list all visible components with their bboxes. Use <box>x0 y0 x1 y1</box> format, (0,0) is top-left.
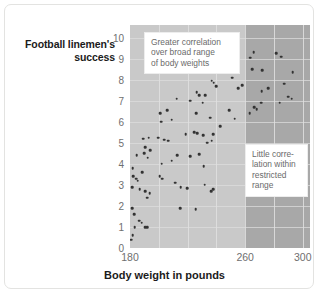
data-point <box>275 52 278 55</box>
y-tick-label-7: 7 <box>108 95 124 106</box>
data-point <box>141 171 144 174</box>
x-axis-title: Body weight in pounds <box>5 269 319 281</box>
data-point <box>209 116 212 119</box>
data-point <box>283 83 286 86</box>
data-point <box>291 71 294 74</box>
annotation-line: restricted <box>252 170 302 180</box>
y-tick-label-2: 2 <box>108 200 124 211</box>
data-point <box>248 112 251 115</box>
data-point <box>184 133 187 136</box>
data-point <box>194 208 197 211</box>
annotation-line: Little corre- <box>252 149 302 159</box>
gridline-h-2 <box>130 206 310 207</box>
data-point <box>163 138 166 141</box>
annotation-restricted-range: Little corre-lation withinrestrictedrang… <box>245 144 308 197</box>
data-point <box>133 213 136 216</box>
data-point <box>195 91 198 94</box>
annotation-line: range <box>252 180 302 190</box>
gridline-v-260 <box>245 25 246 248</box>
data-point <box>215 85 218 88</box>
y-axis-title: Football linemen's success <box>11 38 115 64</box>
data-point <box>253 51 256 54</box>
annotation-line: Greater correlation <box>151 37 234 47</box>
data-point <box>157 136 160 139</box>
data-point <box>144 190 147 193</box>
data-point <box>167 139 170 142</box>
data-point <box>186 187 189 190</box>
data-point <box>228 109 231 112</box>
data-point <box>212 133 215 136</box>
data-point <box>130 238 133 241</box>
data-point <box>149 149 152 152</box>
data-point <box>251 68 254 71</box>
data-point <box>159 112 162 115</box>
data-point <box>138 188 141 191</box>
data-point <box>204 94 207 97</box>
data-point <box>196 132 199 135</box>
gridline-h-1 <box>130 227 310 228</box>
data-point <box>174 181 177 184</box>
data-point <box>189 99 192 102</box>
data-point <box>160 163 163 166</box>
data-point <box>131 207 134 210</box>
x-tick-label-180: 180 <box>121 251 139 263</box>
data-point <box>134 226 137 229</box>
data-point <box>291 97 294 100</box>
data-point <box>143 152 146 155</box>
data-point <box>287 95 290 98</box>
data-point <box>260 102 263 105</box>
data-point <box>219 125 222 128</box>
data-point <box>179 186 182 189</box>
data-point <box>203 184 206 187</box>
data-point <box>206 142 209 145</box>
data-point <box>255 108 258 111</box>
data-point <box>170 159 173 162</box>
data-point <box>147 136 150 139</box>
data-point <box>148 192 151 195</box>
x-tick-label-300: 300 <box>294 251 312 263</box>
data-point <box>231 76 234 79</box>
data-point <box>144 146 147 149</box>
data-point <box>198 153 201 156</box>
data-point <box>233 117 236 120</box>
data-point <box>146 226 149 229</box>
data-point <box>237 87 240 90</box>
data-point <box>146 196 149 199</box>
annotation-line: lation within <box>252 159 302 169</box>
gridline-h-6 <box>130 122 310 123</box>
y-tick-label-8: 8 <box>108 74 124 85</box>
data-point <box>280 55 283 58</box>
data-point <box>166 109 169 112</box>
y-tick-label-10: 10 <box>108 32 124 43</box>
data-point <box>261 69 264 72</box>
data-point <box>241 84 244 87</box>
data-point <box>202 102 205 105</box>
figure-card: Football linemen's success Greater corre… <box>4 4 314 289</box>
gridline-v-280 <box>274 25 275 248</box>
data-point <box>131 186 134 189</box>
data-point <box>202 165 205 168</box>
y-tick-label-6: 6 <box>108 116 124 127</box>
annotation-broad-range: Greater correlationover broad rangeof bo… <box>144 32 240 74</box>
data-point <box>142 137 145 140</box>
data-point <box>179 207 182 210</box>
y-tick-label-4: 4 <box>108 158 124 169</box>
data-point <box>267 87 270 90</box>
gridline-v-300 <box>303 25 304 248</box>
y-tick-label-5: 5 <box>108 137 124 148</box>
gridline-h-8 <box>130 80 310 81</box>
data-point <box>170 118 173 121</box>
data-point <box>132 234 135 237</box>
data-point <box>136 179 139 182</box>
data-point <box>260 90 263 93</box>
data-point <box>195 112 198 115</box>
y-tick-label-3: 3 <box>108 179 124 190</box>
data-point <box>202 134 205 137</box>
annotation-line: over broad range <box>151 47 234 57</box>
data-point <box>278 102 281 105</box>
y-tick-label-9: 9 <box>108 53 124 64</box>
data-point <box>135 154 138 157</box>
data-point <box>249 56 252 59</box>
data-point <box>160 120 163 123</box>
data-point <box>212 188 215 191</box>
